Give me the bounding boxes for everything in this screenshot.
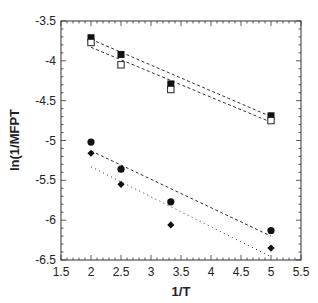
x-tick-label: 4.5 xyxy=(233,265,250,279)
marker-square-open xyxy=(118,62,124,68)
marker-square-open xyxy=(168,86,174,92)
fit-lines xyxy=(91,39,271,256)
marker-circle-filled xyxy=(167,198,174,205)
x-tick-label: 3 xyxy=(148,265,155,279)
marker-circle-filled xyxy=(267,227,274,234)
y-tick-label: -6 xyxy=(45,213,56,227)
marker-diamond-filled xyxy=(167,221,174,228)
x-tick-label: 5 xyxy=(268,265,275,279)
fit-line xyxy=(91,47,271,122)
plot-border xyxy=(61,21,301,260)
y-tick-label: -6.5 xyxy=(35,253,56,267)
x-tick-label: 1.5 xyxy=(53,265,70,279)
data-points xyxy=(87,34,274,251)
marker-diamond-filled xyxy=(117,181,124,188)
x-tick-label: 3.5 xyxy=(173,265,190,279)
marker-diamond-filled xyxy=(87,150,94,157)
x-tick-label: 2 xyxy=(88,265,95,279)
chart: 1.522.533.544.555.5-3.5-4-4.5-5-5.5-6-6.… xyxy=(0,0,318,303)
axis-ticks xyxy=(61,21,301,260)
y-tick-label: -5.5 xyxy=(35,173,56,187)
marker-square-open xyxy=(268,117,274,123)
marker-square-open xyxy=(88,39,94,45)
y-tick-label: -3.5 xyxy=(35,14,56,28)
marker-circle-filled xyxy=(87,138,94,145)
fit-line xyxy=(91,39,271,116)
x-tick-label: 5.5 xyxy=(293,265,310,279)
fit-line xyxy=(91,151,271,236)
x-tick-label: 4 xyxy=(208,265,215,279)
marker-diamond-filled xyxy=(267,244,274,251)
marker-square-filled xyxy=(118,51,125,58)
y-axis-title: ln(1/MFPT xyxy=(7,109,22,171)
tick-labels: 1.522.533.544.555.5-3.5-4-4.5-5-5.5-6-6.… xyxy=(35,14,309,279)
x-tick-label: 2.5 xyxy=(113,265,130,279)
plot-frame xyxy=(61,21,301,260)
y-tick-label: -4.5 xyxy=(35,94,56,108)
marker-circle-filled xyxy=(117,166,124,173)
y-tick-label: -4 xyxy=(45,54,56,68)
fit-line xyxy=(91,167,271,257)
x-axis-title: 1/T xyxy=(172,284,191,299)
y-tick-label: -5 xyxy=(45,134,56,148)
